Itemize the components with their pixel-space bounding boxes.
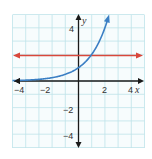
x-tick-label: 4 [128,85,133,95]
y-tick-label: −2 [63,105,73,115]
x-axis-label: x [134,84,140,95]
y-tick-label: 4 [69,24,74,34]
x-tick-label: −4 [14,85,24,95]
y-tick-label: −4 [63,131,73,141]
x-tick-label: −2 [40,85,50,95]
x-tick-label: 2 [102,85,107,95]
y-axis-label: y [81,15,87,26]
coordinate-plane: −4 −2 2 4 x 4 −2 −4 y [0,0,152,159]
